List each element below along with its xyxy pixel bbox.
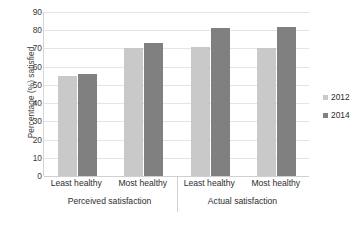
y-axis-tick-60: 60 bbox=[22, 62, 42, 70]
y-axis-tick-80: 80 bbox=[22, 26, 42, 34]
legend-label: 2012 bbox=[331, 93, 350, 101]
bar-2014-3 bbox=[277, 27, 296, 176]
y-axis-tick-40: 40 bbox=[22, 99, 42, 107]
y-axis-tick-10: 10 bbox=[22, 154, 42, 162]
x-axis-label-0: Least healthy bbox=[51, 178, 102, 188]
y-axis-tick-70: 70 bbox=[22, 44, 42, 52]
group-label-1: Actual satisfaction bbox=[208, 196, 277, 206]
x-axis-label-3: Most healthy bbox=[251, 178, 300, 188]
legend-item-2014[interactable]: 2014 bbox=[323, 110, 361, 120]
bar-2014-1 bbox=[144, 43, 163, 176]
y-axis-tick-labels: 0102030405060708090 bbox=[22, 12, 42, 176]
bar-2012-0 bbox=[58, 76, 77, 176]
y-axis-tick-20: 20 bbox=[22, 135, 42, 143]
x-axis-label-2: Least healthy bbox=[184, 178, 235, 188]
legend-swatch-icon-2012 bbox=[323, 95, 328, 100]
plot-area bbox=[43, 12, 309, 176]
legend-swatch-icon-2014 bbox=[323, 113, 328, 118]
y-axis-tick-90: 90 bbox=[22, 8, 42, 16]
bar-2014-2 bbox=[211, 28, 230, 176]
y-axis-tick-50: 50 bbox=[22, 81, 42, 89]
legend: 20122014 bbox=[323, 92, 361, 128]
legend-label: 2014 bbox=[331, 111, 350, 119]
bar-chart: Percentage (%) satisfied 010203040506070… bbox=[0, 0, 361, 225]
bar-2012-2 bbox=[191, 47, 210, 176]
bar-2014-0 bbox=[78, 74, 97, 176]
group-label-0: Perceived satisfaction bbox=[68, 196, 152, 206]
y-axis-tick-30: 30 bbox=[22, 117, 42, 125]
bar-2012-1 bbox=[124, 48, 143, 176]
x-axis-tick-labels: Least healthyMost healthyLeast healthyMo… bbox=[43, 178, 309, 194]
x-axis-group-labels: Perceived satisfactionActual satisfactio… bbox=[43, 196, 309, 212]
bar-2012-3 bbox=[257, 48, 276, 176]
y-axis-tick-0: 0 bbox=[22, 172, 42, 180]
x-axis-label-1: Most healthy bbox=[118, 178, 167, 188]
bars-layer bbox=[44, 12, 309, 176]
legend-item-2012[interactable]: 2012 bbox=[323, 92, 361, 102]
